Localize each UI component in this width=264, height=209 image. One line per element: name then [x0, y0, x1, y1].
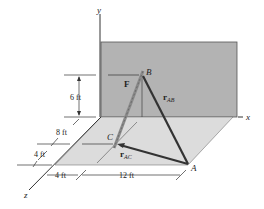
statics-diagram: y x z B C A F rAB rAC 6 ft 8 ft 4 ft 4 f… — [0, 0, 264, 209]
dim-6ft-label: 6 ft — [70, 93, 82, 102]
back-wall — [101, 42, 237, 117]
dim-4ft-z-end — [33, 161, 37, 167]
z-axis-label: z — [23, 190, 28, 200]
point-C-label: C — [107, 132, 114, 142]
dim-8ft-top — [73, 119, 79, 125]
y-axis-label: y — [96, 5, 101, 15]
dim-4ft-z-label: 4 ft — [34, 150, 46, 159]
dim-12ft-label: 12 ft — [119, 171, 135, 180]
point-A-label: A — [190, 163, 197, 173]
dim-8ft-label: 8 ft — [56, 128, 68, 137]
arrow-up-icon — [77, 76, 81, 81]
x-axis-label: x — [245, 112, 250, 122]
floor-plane — [55, 117, 233, 165]
arrow-down-icon — [77, 111, 81, 116]
force-F-label: F — [124, 79, 130, 89]
dim-8ft-bottom — [51, 138, 58, 146]
dim-4ft-x-label: 4 ft — [55, 171, 67, 180]
point-B-label: B — [146, 67, 152, 77]
